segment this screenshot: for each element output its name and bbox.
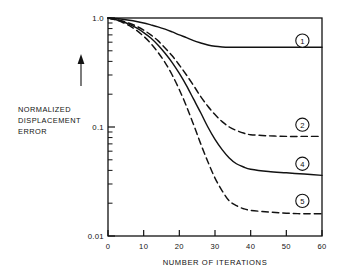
x-tick-label: 10 [139, 242, 148, 251]
x-tick-label: 0 [106, 242, 111, 251]
curve-label-2: 2 [296, 118, 309, 131]
x-tick-labels: 0102030405060 [106, 242, 327, 251]
x-tick-label: 30 [210, 242, 219, 251]
up-arrow-icon [78, 54, 85, 86]
curve-label-text: 5 [300, 197, 304, 206]
curve-label-text: 1 [300, 37, 304, 46]
curve-number-labels: 1245 [296, 34, 309, 207]
x-tick-label: 60 [317, 242, 326, 251]
y-axis-label-line-1: NORMALIZED [18, 104, 104, 115]
x-tick-label: 50 [282, 242, 291, 251]
curve-label-4: 4 [296, 157, 309, 170]
curve-label-5: 5 [296, 194, 309, 207]
chart-svg: 0102030405060 0.010.11.0 1245 [0, 0, 342, 279]
y-axis-ticks [108, 18, 115, 236]
curve-label-text: 2 [300, 121, 304, 130]
chart-curves [108, 18, 322, 214]
chart-figure: 0102030405060 0.010.11.0 1245 NORMALIZED… [0, 0, 342, 279]
y-axis-label-line-2: DISPLACEMENT [18, 115, 104, 126]
x-tick-label: 40 [246, 242, 255, 251]
curve-2 [108, 18, 322, 136]
y-axis-label-line-3: ERROR [18, 126, 104, 137]
x-axis-ticks [108, 230, 322, 236]
curve-4 [108, 18, 322, 175]
plot-frame [108, 18, 322, 236]
x-tick-label: 20 [175, 242, 184, 251]
x-axis-label: NUMBER OF ITERATIONS [108, 258, 322, 267]
y-tick-label: 0.01 [88, 232, 104, 241]
y-tick-label: 1.0 [92, 14, 104, 23]
curve-label-text: 4 [300, 160, 304, 169]
y-axis-label: NORMALIZED DISPLACEMENT ERROR [18, 104, 104, 137]
curve-label-1: 1 [296, 34, 309, 47]
